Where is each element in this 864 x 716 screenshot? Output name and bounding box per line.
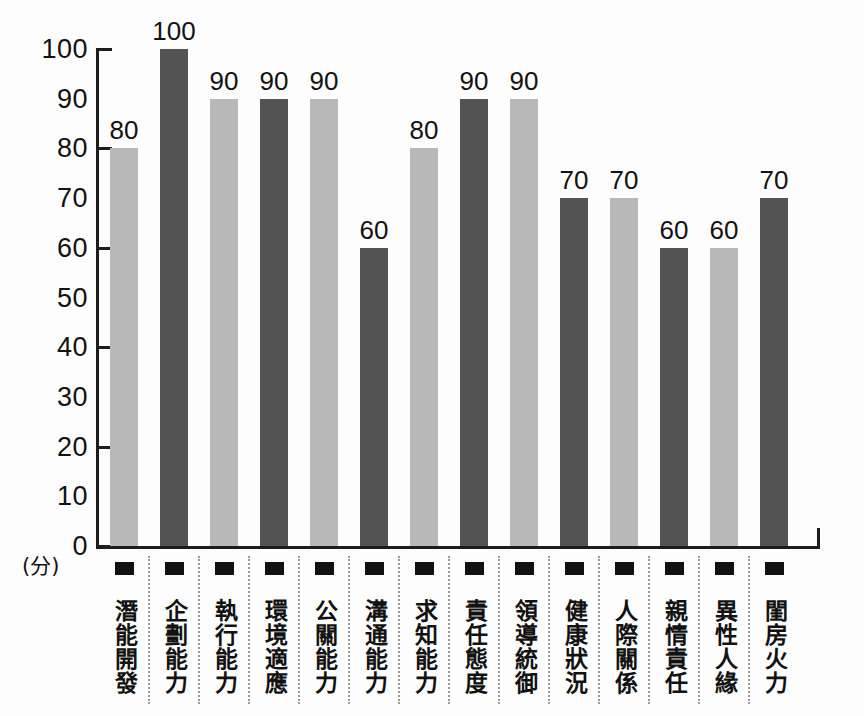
- category-label: 責任態度: [462, 584, 487, 710]
- y-axis-unit-label: (分): [22, 556, 59, 577]
- category-item[interactable]: 溝通能力: [349, 552, 399, 712]
- bar-slot: 100: [149, 49, 199, 546]
- category-label: 環境適應: [262, 584, 287, 710]
- category-label: 人際關係: [612, 584, 637, 710]
- bar: [710, 248, 738, 546]
- category-marker-icon: [715, 562, 734, 575]
- bar-slot: 70: [749, 49, 799, 546]
- category-label-wrap: 環境適應: [249, 584, 299, 710]
- category-label: 企劃能力: [162, 584, 187, 710]
- category-item[interactable]: 環境適應: [249, 552, 299, 712]
- bar-value-label: 70: [549, 167, 599, 193]
- bar-value-label: 60: [349, 217, 399, 243]
- y-tick-label: 60: [26, 235, 88, 262]
- bar-value-label: 90: [199, 68, 249, 94]
- category-marker-icon: [765, 562, 784, 575]
- bar-slot: 90: [249, 49, 299, 546]
- category-item[interactable]: 潛能開發: [99, 552, 149, 712]
- bar: [160, 49, 188, 546]
- y-tick-label: 40: [26, 334, 88, 361]
- bar: [510, 99, 538, 546]
- bar: [660, 248, 688, 546]
- category-item[interactable]: 責任態度: [449, 552, 499, 712]
- bar-slot: 60: [699, 49, 749, 546]
- bar-value-label: 60: [649, 217, 699, 243]
- y-axis-label-group: 1009080706050403020100: [26, 34, 88, 554]
- bar-value-label: 60: [699, 217, 749, 243]
- category-label: 公關能力: [312, 584, 337, 710]
- category-item[interactable]: 人際關係: [599, 552, 649, 712]
- category-marker-icon: [665, 562, 684, 575]
- category-item[interactable]: 健康狀況: [549, 552, 599, 712]
- y-tick-label: 50: [26, 285, 88, 312]
- category-item[interactable]: 公關能力: [299, 552, 349, 712]
- bar-slot: 60: [349, 49, 399, 546]
- category-item[interactable]: 求知能力: [399, 552, 449, 712]
- bar: [210, 99, 238, 546]
- category-marker-icon: [265, 562, 284, 575]
- category-label-wrap: 人際關係: [599, 584, 649, 710]
- category-label-wrap: 親情責任: [649, 584, 699, 710]
- y-tick-label: 100: [26, 36, 88, 63]
- category-marker-icon: [315, 562, 334, 575]
- bar: [260, 99, 288, 546]
- category-item[interactable]: 領導統御: [499, 552, 549, 712]
- category-item[interactable]: 企劃能力: [149, 552, 199, 712]
- bar-slot: 80: [399, 49, 449, 546]
- category-label: 執行能力: [212, 584, 237, 710]
- category-label-wrap: 健康狀況: [549, 584, 599, 710]
- bar-slot: 70: [549, 49, 599, 546]
- category-marker-icon: [465, 562, 484, 575]
- category-item[interactable]: 閨房火力: [749, 552, 799, 712]
- bar-value-label: 80: [399, 117, 449, 143]
- y-tick-label: 30: [26, 384, 88, 411]
- category-label-wrap: 領導統御: [499, 584, 549, 710]
- category-label-wrap: 求知能力: [399, 584, 449, 710]
- bar-value-label: 80: [99, 117, 149, 143]
- category-item[interactable]: 親情責任: [649, 552, 699, 712]
- bar-slot: 80: [99, 49, 149, 546]
- bar-slot: 70: [599, 49, 649, 546]
- category-label-wrap: 公關能力: [299, 584, 349, 710]
- category-label: 領導統御: [512, 584, 537, 710]
- category-item[interactable]: 異性人緣: [699, 552, 749, 712]
- bar-value-label: 90: [499, 68, 549, 94]
- category-marker-icon: [615, 562, 634, 575]
- y-tick-label: 90: [26, 86, 88, 113]
- x-axis-baseline: [96, 546, 820, 549]
- category-label: 潛能開發: [112, 584, 137, 710]
- category-label-wrap: 企劃能力: [149, 584, 199, 710]
- category-label: 健康狀況: [562, 584, 587, 710]
- category-label: 溝通能力: [362, 584, 387, 710]
- bar-slot: 60: [649, 49, 699, 546]
- bar-value-label: 100: [149, 18, 199, 44]
- bar-value-label: 70: [749, 167, 799, 193]
- category-label-wrap: 閨房火力: [749, 584, 799, 710]
- bar: [410, 148, 438, 546]
- category-item[interactable]: 執行能力: [199, 552, 249, 712]
- category-label-wrap: 異性人緣: [699, 584, 749, 710]
- category-label-wrap: 潛能開發: [99, 584, 149, 710]
- category-marker-icon: [115, 562, 134, 575]
- bar-slot: 90: [199, 49, 249, 546]
- bar: [360, 248, 388, 546]
- bar: [760, 198, 788, 546]
- y-tick-label: 80: [26, 135, 88, 162]
- bar: [460, 99, 488, 546]
- bar: [110, 148, 138, 546]
- bar-slot: 90: [299, 49, 349, 546]
- category-label: 求知能力: [412, 584, 437, 710]
- category-marker-icon: [215, 562, 234, 575]
- bar-slot: 90: [499, 49, 549, 546]
- bar: [560, 198, 588, 546]
- bar-value-label: 70: [599, 167, 649, 193]
- bar-value-label: 90: [249, 68, 299, 94]
- plot-area: 80100909090608090907070606070: [99, 49, 818, 546]
- chart-canvas: 1009080706050403020100 (分) 8010090909060…: [0, 0, 864, 716]
- bar-slot: 90: [449, 49, 499, 546]
- category-marker-icon: [565, 562, 584, 575]
- category-label: 異性人緣: [712, 584, 737, 710]
- category-label-wrap: 溝通能力: [349, 584, 399, 710]
- category-label-wrap: 執行能力: [199, 584, 249, 710]
- y-tick-label: 70: [26, 185, 88, 212]
